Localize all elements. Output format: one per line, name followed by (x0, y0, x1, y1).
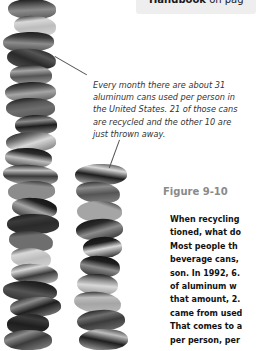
crushed-can (4, 330, 53, 351)
crushed-can (79, 328, 128, 351)
handbook-reference-text: Handbook on pag (149, 0, 244, 5)
cans-caption: Every month there are about 31 aluminum … (93, 79, 243, 140)
body-line: When recycling (170, 213, 260, 226)
body-line: That comes to a (170, 320, 260, 333)
body-line: beverage cans, (170, 253, 260, 266)
figure-label: Figure 9-10 (163, 186, 228, 197)
caption-leader-line-bottom (109, 140, 120, 168)
handbook-reference-box: Handbook on pag (136, 0, 256, 14)
body-line: son. In 1992, 6. (170, 267, 260, 280)
body-line: Most people th (170, 240, 260, 253)
body-line: came from used (170, 307, 260, 320)
body-line: that amount, 2. (170, 293, 260, 306)
body-line: of aluminum w (170, 280, 260, 293)
body-line: per person, per (170, 334, 260, 347)
handbook-label: Handbook (149, 0, 206, 5)
handbook-page-ref: on pag (206, 0, 244, 5)
recycled-cans-stack (4, 0, 74, 348)
body-line: tioned, what do (170, 226, 260, 239)
figure-body-text: When recycling tioned, what do Most peop… (170, 213, 260, 347)
thrown-away-cans-stack (74, 165, 140, 348)
